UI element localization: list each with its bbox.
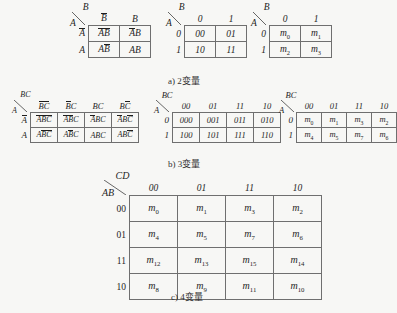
corner-top-label: B (83, 2, 89, 12)
kmap-cell-r1c2: m7 (346, 128, 371, 143)
header-row: BCABCBCBCBC (14, 100, 139, 113)
var: 1 (165, 130, 170, 140)
var: A (22, 130, 28, 140)
kmap-cell-r1c1: m5 (321, 128, 346, 143)
row-header-1: 1 (168, 42, 185, 58)
kmap-three-var-minterm: BCA000111100m0m1m3m21m4m5m7m6 (281, 100, 397, 143)
column-header-1: 01 (178, 180, 226, 196)
column-header-0: 00 (296, 100, 321, 113)
kmap-cell-r0c1: ABC (58, 113, 85, 128)
kmap-cell-r0c3: m2 (274, 196, 322, 222)
var: C (71, 101, 77, 111)
two-variable-minterm-group: BA010m0m11m2m3 (253, 12, 332, 58)
minterm-label: m11 (243, 280, 257, 291)
row-header-0: A (72, 26, 89, 42)
corner-cell: BA (72, 12, 89, 26)
kmap-cell-r1c2: 111 (227, 128, 254, 143)
column-header-0: B (89, 12, 120, 26)
cell-value: 111 (234, 130, 246, 140)
cell-value: 11 (355, 101, 363, 111)
kmap-cell-r1c1: AB (120, 42, 151, 58)
row-header-1: 1 (281, 128, 296, 143)
row-header-0: 0 (156, 113, 173, 128)
column-header-3: BC (112, 100, 139, 113)
kmap-cell-r1c1: ABC (58, 128, 85, 143)
column-header-2: BC (85, 100, 112, 113)
column-header-2: 11 (227, 100, 254, 113)
table-row: 1m4m5m7m6 (281, 128, 397, 143)
minterm-label: m6 (292, 228, 303, 239)
kmap-cell-r0c2: m3 (226, 196, 274, 222)
cell-value: 00 (182, 101, 191, 111)
column-header-1: 1 (216, 12, 247, 26)
var: C (73, 115, 78, 124)
table-row: AABAB (72, 26, 151, 42)
corner-top-label: B (264, 2, 270, 12)
overline: B (104, 28, 110, 39)
var: 1 (176, 45, 181, 55)
var: C (100, 115, 105, 124)
minterm-label: m1 (196, 202, 207, 213)
minterm-label: m7 (354, 129, 363, 139)
kmap-three-var-binary: BCA0001111000000010110101100101111110 (156, 100, 281, 143)
kmap-cell-r2c1: m13 (178, 248, 226, 274)
var: 0 (283, 14, 288, 24)
minterm-label: m1 (311, 28, 321, 38)
corner-top-label: CD (116, 170, 130, 181)
row-header-0: 00 (104, 196, 130, 222)
kmap-cell-r1c1: m5 (178, 222, 226, 248)
caption-three-variable: b) 3变量 (168, 157, 200, 170)
corner-bottom-label: A (12, 106, 17, 115)
kmap-cell-r0c0: m0 (270, 26, 301, 42)
corner-cell: BCA (14, 100, 31, 113)
corner-bottom-label: A (251, 18, 257, 28)
column-header-3: 10 (371, 100, 396, 113)
kmap-cell-r1c0: m4 (130, 222, 178, 248)
kmap-cell-r0c0: AB (89, 26, 120, 42)
caption-two-variable: a) 2变量 (168, 74, 200, 87)
minterm-label: m3 (311, 44, 321, 54)
table-row: 0m0m1m3m2 (281, 113, 397, 128)
kmap-cell-r2c3: m14 (274, 248, 322, 274)
row-header-1: 1 (253, 42, 270, 58)
cell-value: 10 (117, 282, 127, 292)
corner-top-label: BC (286, 90, 297, 100)
minterm-label: m13 (194, 254, 208, 265)
minterm-label: m5 (196, 228, 207, 239)
kmap-cell-r0c1: AB (120, 26, 151, 42)
kmap-cell-r2c0: m12 (130, 248, 178, 274)
kmap-cell-r1c3: ABC (112, 128, 139, 143)
column-header-1: 01 (321, 100, 346, 113)
kmap-cell-r1c0: 10 (185, 42, 216, 58)
cell-value: 10 (293, 183, 303, 193)
column-header-0: 00 (130, 180, 178, 196)
column-header-0: 0 (185, 12, 216, 26)
kmap-cell-r0c2: m3 (346, 113, 371, 128)
cell-value: 11 (227, 45, 236, 55)
header-row: BCA00011110 (281, 100, 397, 113)
kmap-cell-r0c1: 001 (200, 113, 227, 128)
corner-cell: CDAB (104, 180, 130, 196)
kmap-cell-r3c2: m11 (226, 274, 274, 300)
kmap-cell-r1c1: m3 (301, 42, 332, 58)
column-header-0: 00 (173, 100, 200, 113)
var: B (135, 28, 141, 38)
kmap-three-var-algebraic: BCABCBCBCBCAABCABCABCABCAABCABCABCABC (14, 100, 139, 143)
header-row: BABB (72, 12, 151, 26)
minterm-label: m8 (148, 280, 159, 291)
corner-top-label: BC (20, 90, 30, 99)
overline: B (101, 13, 107, 24)
var: C (98, 101, 104, 111)
two-variable-binary-group: BA010000111011 (168, 12, 247, 58)
row-header-1: 1 (156, 128, 173, 143)
minterm-label: m0 (280, 28, 290, 38)
corner-bottom-label: A (166, 18, 172, 28)
kmap-cell-r0c2: ABC (85, 113, 112, 128)
kmap-two-var-algebraic: BABBAABABAABAB (72, 12, 151, 58)
cell-value: 01 (330, 101, 339, 111)
cell-value: 10 (380, 101, 389, 111)
var: 0 (165, 115, 170, 125)
kmap-cell-r1c3: m6 (274, 222, 322, 248)
corner-bottom-label: A (70, 18, 76, 28)
minterm-label: m2 (292, 202, 303, 213)
